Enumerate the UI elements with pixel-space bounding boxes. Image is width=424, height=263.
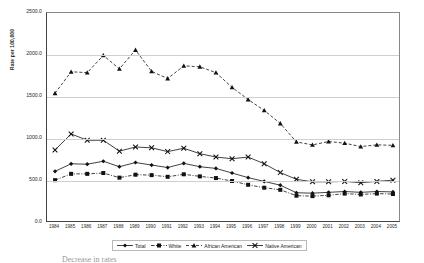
- legend-label: Native American: [265, 243, 301, 249]
- y-tick-label: 2500.0: [8, 9, 42, 14]
- x-tick-label: 2005: [387, 224, 397, 229]
- y-tick-label: 0.0: [8, 219, 42, 224]
- series-white: [53, 171, 395, 198]
- series-total: [53, 159, 395, 195]
- y-tick-label: 1500.0: [8, 93, 42, 98]
- x-tick-label: 1984: [49, 224, 59, 229]
- y-tick-label: 1000.0: [8, 135, 42, 140]
- x-tick-label: 1988: [113, 224, 123, 229]
- x-tick-label: 1999: [290, 224, 300, 229]
- x-tick-label: 1990: [145, 224, 155, 229]
- x-tick-label: 1993: [194, 224, 204, 229]
- legend-item-african-american[interactable]: African American: [186, 242, 242, 249]
- legend-item-total[interactable]: Total: [117, 242, 146, 249]
- grid-line: [47, 139, 399, 140]
- y-tick-label: 500.0: [8, 177, 42, 182]
- chart-legend: TotalWhiteAfrican AmericanNative America…: [112, 240, 307, 251]
- x-axis-tick-labels: 1984198519861987198819891990199119921993…: [46, 224, 400, 234]
- legend-item-native-american[interactable]: Native American: [247, 242, 301, 249]
- legend-marker-icon: [247, 242, 263, 249]
- y-axis-tick-labels: 0.0500.01000.01500.02000.02500.0: [4, 0, 42, 263]
- page-scrap-text: Decrease in rates: [62, 255, 117, 263]
- legend-marker-icon: [186, 242, 202, 249]
- legend-label: White: [169, 243, 182, 249]
- legend-label: African American: [204, 243, 242, 249]
- legend-item-white[interactable]: White: [151, 242, 182, 249]
- x-tick-label: 1998: [274, 224, 284, 229]
- x-tick-label: 1987: [97, 224, 107, 229]
- grid-line: [47, 97, 399, 98]
- plot-area: [46, 12, 400, 222]
- legend-marker-icon: [117, 242, 133, 249]
- x-tick-label: 1986: [81, 224, 91, 229]
- x-tick-label: 1992: [178, 224, 188, 229]
- series-lines: [47, 13, 401, 223]
- series-african-american: [53, 48, 396, 149]
- legend-marker-icon: [151, 242, 167, 249]
- x-tick-label: 2001: [322, 224, 332, 229]
- x-tick-label: 1994: [210, 224, 220, 229]
- chart-container: Rate per 100,000 0.0500.01000.01500.0200…: [0, 0, 424, 263]
- x-tick-label: 2004: [371, 224, 381, 229]
- x-tick-label: 1996: [242, 224, 252, 229]
- x-tick-label: 2002: [339, 224, 349, 229]
- x-tick-label: 1995: [226, 224, 236, 229]
- x-tick-label: 1991: [162, 224, 172, 229]
- x-tick-label: 1989: [129, 224, 139, 229]
- grid-line: [47, 55, 399, 56]
- y-tick-label: 2000.0: [8, 51, 42, 56]
- grid-line: [47, 181, 399, 182]
- x-tick-label: 1985: [65, 224, 75, 229]
- legend-label: Total: [135, 243, 146, 249]
- x-tick-label: 1997: [258, 224, 268, 229]
- x-tick-label: 2003: [355, 224, 365, 229]
- x-tick-label: 2000: [306, 224, 316, 229]
